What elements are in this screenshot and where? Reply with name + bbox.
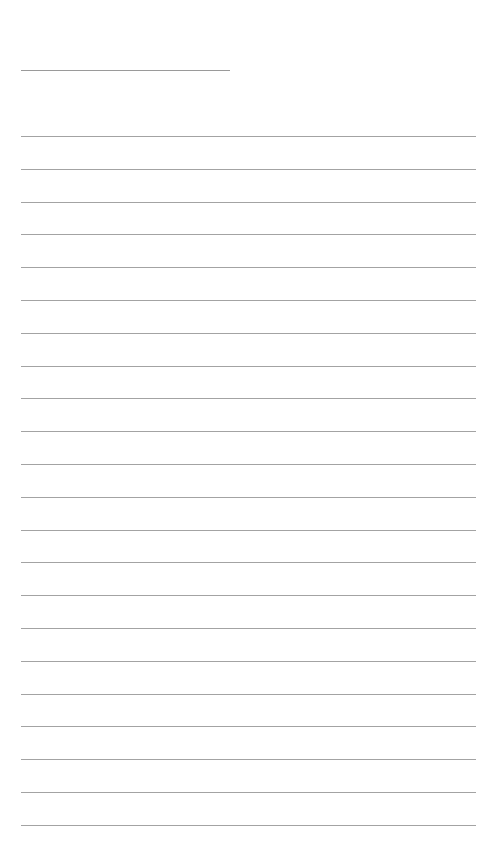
ruled-line	[21, 202, 476, 203]
ruled-line	[21, 726, 476, 727]
ruled-line	[21, 792, 476, 793]
ruled-line	[21, 300, 476, 301]
lined-page	[0, 0, 493, 856]
ruled-line	[21, 464, 476, 465]
ruled-line	[21, 661, 476, 662]
ruled-line	[21, 398, 476, 399]
ruled-line	[21, 431, 476, 432]
ruled-line	[21, 267, 476, 268]
ruled-line	[21, 759, 476, 760]
ruled-line	[21, 366, 476, 367]
ruled-line	[21, 169, 476, 170]
ruled-line	[21, 825, 476, 826]
ruled-line	[21, 497, 476, 498]
ruled-line	[21, 562, 476, 563]
ruled-line	[21, 234, 476, 235]
ruled-line	[21, 136, 476, 137]
ruled-line	[21, 595, 476, 596]
ruled-lines	[21, 0, 476, 856]
ruled-line	[21, 333, 476, 334]
ruled-line	[21, 628, 476, 629]
ruled-line	[21, 530, 476, 531]
ruled-line	[21, 694, 476, 695]
